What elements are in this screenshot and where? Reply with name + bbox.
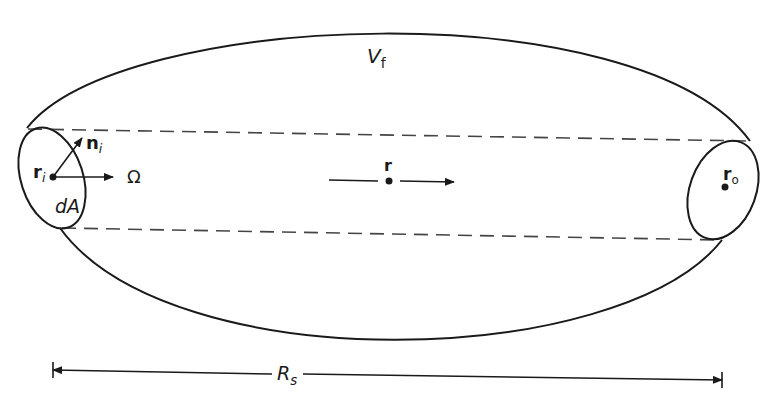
distance-label: Rs	[277, 364, 297, 383]
cylinder-top-edge	[28, 129, 750, 141]
volume-upper-boundary	[27, 34, 750, 141]
volume-label: Vf	[367, 46, 386, 66]
area-label: dA	[55, 197, 80, 216]
distance-line-right	[303, 374, 722, 380]
output-point-dot	[722, 184, 729, 191]
output-point-label: ro	[723, 166, 739, 183]
distance-line-left	[53, 370, 272, 374]
cylinder-bottom-edge	[62, 228, 722, 240]
input-point-label: ri	[33, 163, 45, 181]
volume-lower-boundary	[60, 228, 722, 340]
field-arrow	[400, 181, 454, 182]
field-line-left	[329, 180, 378, 181]
direction-label: Ω	[127, 168, 141, 186]
output-area-ellipse	[675, 131, 772, 249]
field-point-dot	[386, 178, 393, 185]
field-point-label: r	[384, 158, 392, 174]
normal-label: ni	[86, 134, 102, 152]
diagram-canvas	[0, 0, 779, 407]
